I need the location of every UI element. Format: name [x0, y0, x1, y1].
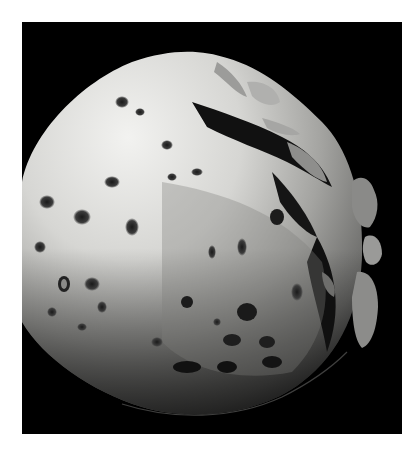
moon-body [22, 22, 402, 434]
moon-illustration [22, 22, 402, 434]
photo-frame [22, 22, 402, 434]
